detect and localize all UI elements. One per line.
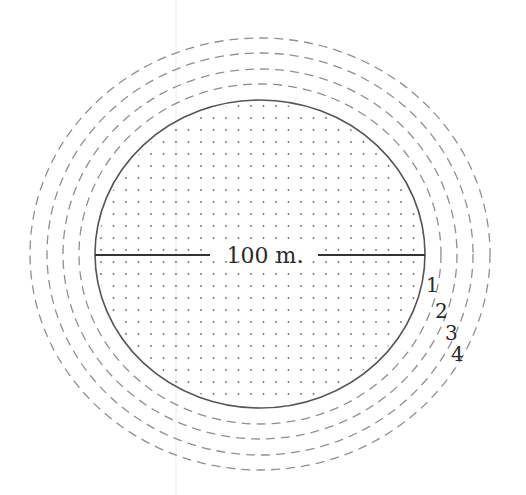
ring-label-2: 2 <box>435 299 448 323</box>
concentric-zones-diagram: 100 m. 1234 <box>0 0 526 495</box>
diagram-canvas: 100 m. 1234 <box>0 0 526 495</box>
ring-label-1: 1 <box>426 273 439 297</box>
diameter-label: 100 m. <box>227 243 304 268</box>
ring-labels: 1234 <box>426 273 464 366</box>
ring-label-4: 4 <box>451 342 464 366</box>
